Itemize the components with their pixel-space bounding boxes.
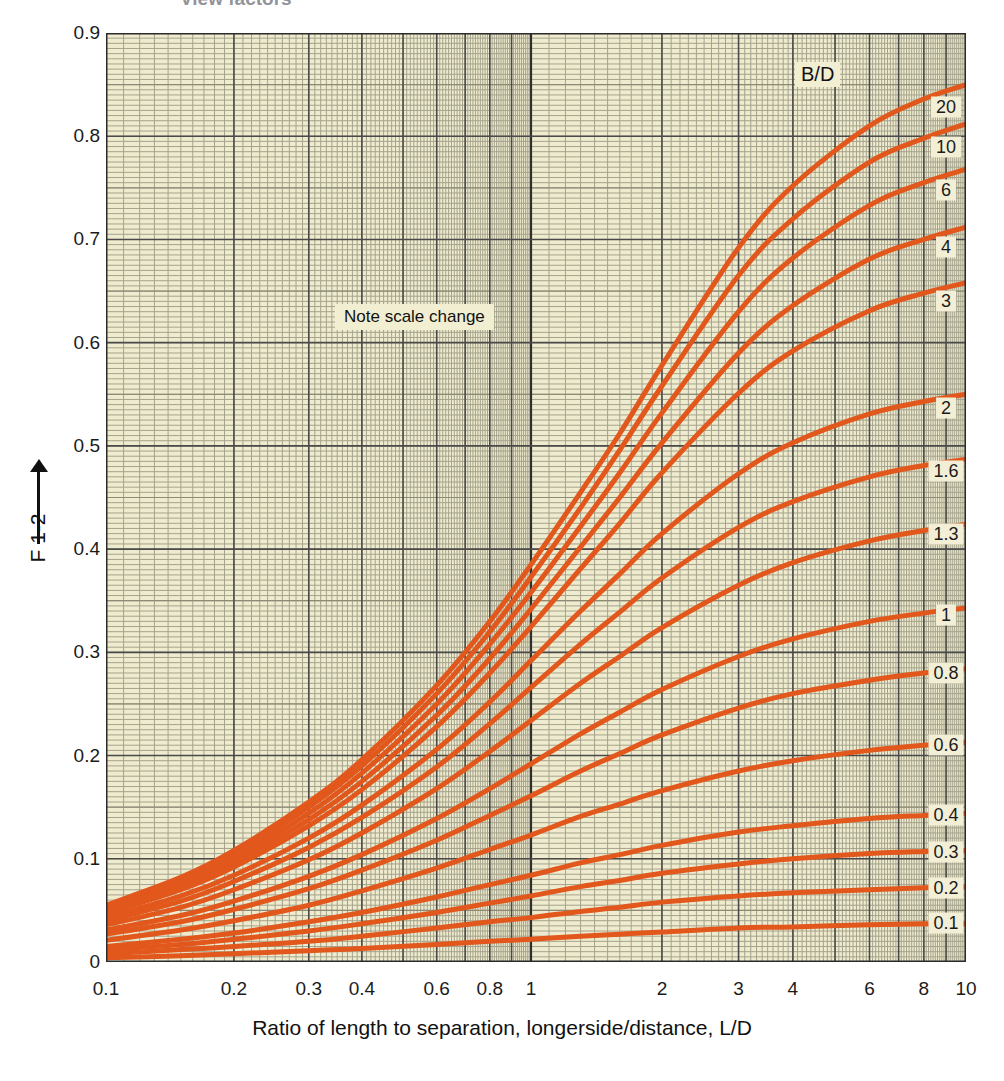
curve-label-0-1: 0.1 [929, 912, 964, 933]
y-axis-label-text: F 1-2 [26, 502, 50, 574]
y-axis-label: F 1-2 [18, 470, 58, 610]
x-axis: 0.10.20.30.40.60.812346810 [106, 972, 966, 1002]
y-axis-tick-label: 0.5 [54, 435, 100, 457]
x-axis-tick-label: 0.2 [221, 978, 247, 1000]
x-axis-tick-label: 3 [733, 978, 744, 1000]
x-axis-tick-label: 0.6 [423, 978, 449, 1000]
curve-label-20: 20 [931, 97, 961, 118]
y-axis-tick-label: 0.9 [54, 22, 100, 44]
x-axis-tick-label: 1 [526, 978, 537, 1000]
curve-label-1-3: 1.3 [929, 523, 964, 544]
x-axis-tick-label: 8 [919, 978, 930, 1000]
y-axis-tick-label: 0.2 [54, 745, 100, 767]
y-axis-tick-label: 0.6 [54, 332, 100, 354]
curve-label-0-3: 0.3 [929, 841, 964, 862]
curve-label-0-6: 0.6 [929, 735, 964, 756]
x-axis-tick-label: 6 [864, 978, 875, 1000]
curve-label-3: 3 [936, 291, 956, 312]
y-axis-tick-label: 0.7 [54, 228, 100, 250]
curve-label-6: 6 [936, 179, 956, 200]
curve-label-2: 2 [936, 397, 956, 418]
note-scale-change-annotation: Note scale change [335, 304, 494, 330]
cut-off-page-title: View factors [180, 0, 600, 6]
y-axis-tick-label: 0.4 [54, 538, 100, 560]
y-axis-tick-label: 0.1 [54, 848, 100, 870]
x-axis-label: Ratio of length to separation, longersid… [0, 1016, 1004, 1040]
curve-label-1-6: 1.6 [929, 460, 964, 481]
x-axis-tick-label: 0.1 [93, 978, 119, 1000]
chart-svg [106, 33, 966, 962]
curve-label-0-8: 0.8 [929, 662, 964, 683]
y-axis-tick-label: 0.8 [54, 125, 100, 147]
chart-plot-area: Note scale change 201064321.61.310.80.60… [106, 33, 966, 962]
y-axis-tick-label: 0.3 [54, 641, 100, 663]
curve-label-0-2: 0.2 [929, 877, 964, 898]
curve-label-4: 4 [936, 236, 956, 257]
family-parameter-header: B/D [795, 62, 840, 87]
y-axis-tick-label: 0 [54, 951, 100, 973]
x-axis-tick-label: 4 [788, 978, 799, 1000]
x-axis-tick-label: 0.3 [296, 978, 322, 1000]
x-axis-tick-label: 10 [955, 978, 976, 1000]
curve-label-0-4: 0.4 [929, 805, 964, 826]
curve-label-1: 1 [936, 605, 956, 626]
x-axis-tick-label: 2 [657, 978, 668, 1000]
x-axis-tick-label: 0.8 [477, 978, 503, 1000]
x-axis-tick-label: 0.4 [349, 978, 375, 1000]
curve-label-10: 10 [931, 136, 961, 157]
